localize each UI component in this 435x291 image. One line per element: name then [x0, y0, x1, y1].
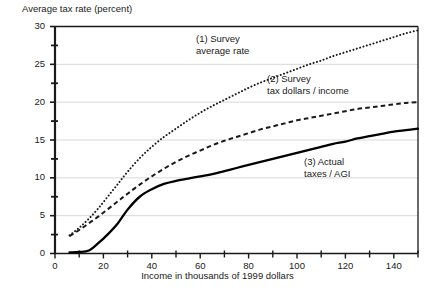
y-tick-label-25: 25: [23, 59, 45, 69]
y-tick-label-30: 30: [23, 21, 45, 31]
y-tick-label-0: 0: [23, 248, 45, 258]
x-tick-label-40: 40: [137, 261, 167, 271]
x-tick-label-120: 120: [330, 261, 360, 271]
y-tick-label-20: 20: [23, 97, 45, 107]
x-tick-marks-group: [55, 251, 418, 259]
series-3-annotation-line1: (3) Actual: [304, 156, 350, 168]
x-tick-label-20: 20: [88, 261, 118, 271]
x-tick-label-60: 60: [185, 261, 215, 271]
x-tick-label-80: 80: [234, 261, 264, 271]
y-tick-label-5: 5: [23, 210, 45, 220]
series-line-1: [70, 30, 418, 235]
series-1-annotation: (1) Survey average rate: [196, 33, 249, 56]
y-tick-label-15: 15: [23, 135, 45, 145]
series-1-annotation-line1: (1) Survey: [196, 33, 249, 45]
y-tick-label-10: 10: [23, 172, 45, 182]
series-2-annotation-line2: tax dollars / income: [267, 85, 349, 97]
series-1-annotation-line2: average rate: [196, 45, 249, 57]
x-tick-label-140: 140: [379, 261, 409, 271]
x-axis-title: Income in thousands of 1999 dollars: [0, 270, 435, 281]
series-2-annotation-line1: (2) Survey: [267, 73, 349, 85]
chart-figure: Average tax rate (percent) 051015202530 …: [0, 0, 435, 291]
gridlines-group: [55, 64, 418, 215]
series-3-annotation: (3) Actual taxes / AGI: [304, 156, 350, 179]
x-tick-label-100: 100: [282, 261, 312, 271]
series-line-3: [70, 129, 418, 253]
series-3-annotation-line2: taxes / AGI: [304, 168, 350, 180]
x-tick-label-0: 0: [40, 261, 70, 271]
data-series-group: [70, 30, 418, 252]
series-2-annotation: (2) Survey tax dollars / income: [267, 73, 349, 96]
